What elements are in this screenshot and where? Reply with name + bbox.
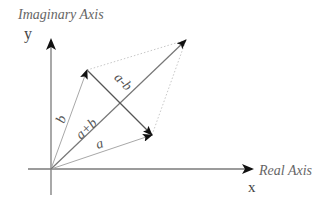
label-b: b	[53, 113, 69, 125]
vector-a-plus-b	[51, 40, 186, 169]
x-axis-symbol: x	[248, 179, 256, 195]
y-axis-title: Imaginary Axis	[17, 7, 104, 22]
y-axis-symbol: y	[24, 25, 32, 43]
x-axis-title: Real Axis	[258, 163, 313, 178]
label-a-minus-b: a-b	[111, 70, 135, 94]
vectors	[51, 40, 186, 169]
complex-plane-diagram: Imaginary Axis y Real Axis x a b a+b a-b	[0, 0, 336, 206]
label-a: a	[94, 135, 105, 151]
guide-a-to-sum	[152, 40, 186, 135]
